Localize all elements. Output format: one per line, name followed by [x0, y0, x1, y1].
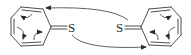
right-molecule: S — [116, 7, 181, 46]
left-arrow-2 — [17, 27, 24, 39]
right-sulfur-label: S — [116, 20, 123, 35]
right-cs-double-bond — [125, 26, 141, 29]
top-arrow — [46, 8, 128, 20]
bottom-arrow — [72, 35, 146, 48]
left-cs-double-bond — [51, 26, 67, 29]
reaction-diagram: S S — [0, 0, 191, 55]
left-arrow-1 — [21, 14, 32, 18]
left-arrow-3 — [34, 32, 42, 40]
right-arrow-2 — [168, 27, 175, 39]
left-ring — [11, 7, 51, 46]
right-arrow-3 — [150, 32, 158, 40]
left-internal-arrows — [17, 14, 42, 40]
right-internal-arrows — [150, 14, 175, 40]
left-molecule: S — [11, 7, 75, 46]
right-ring — [141, 7, 181, 46]
left-sulfur-label: S — [68, 20, 75, 35]
right-arrow-1 — [160, 14, 171, 18]
